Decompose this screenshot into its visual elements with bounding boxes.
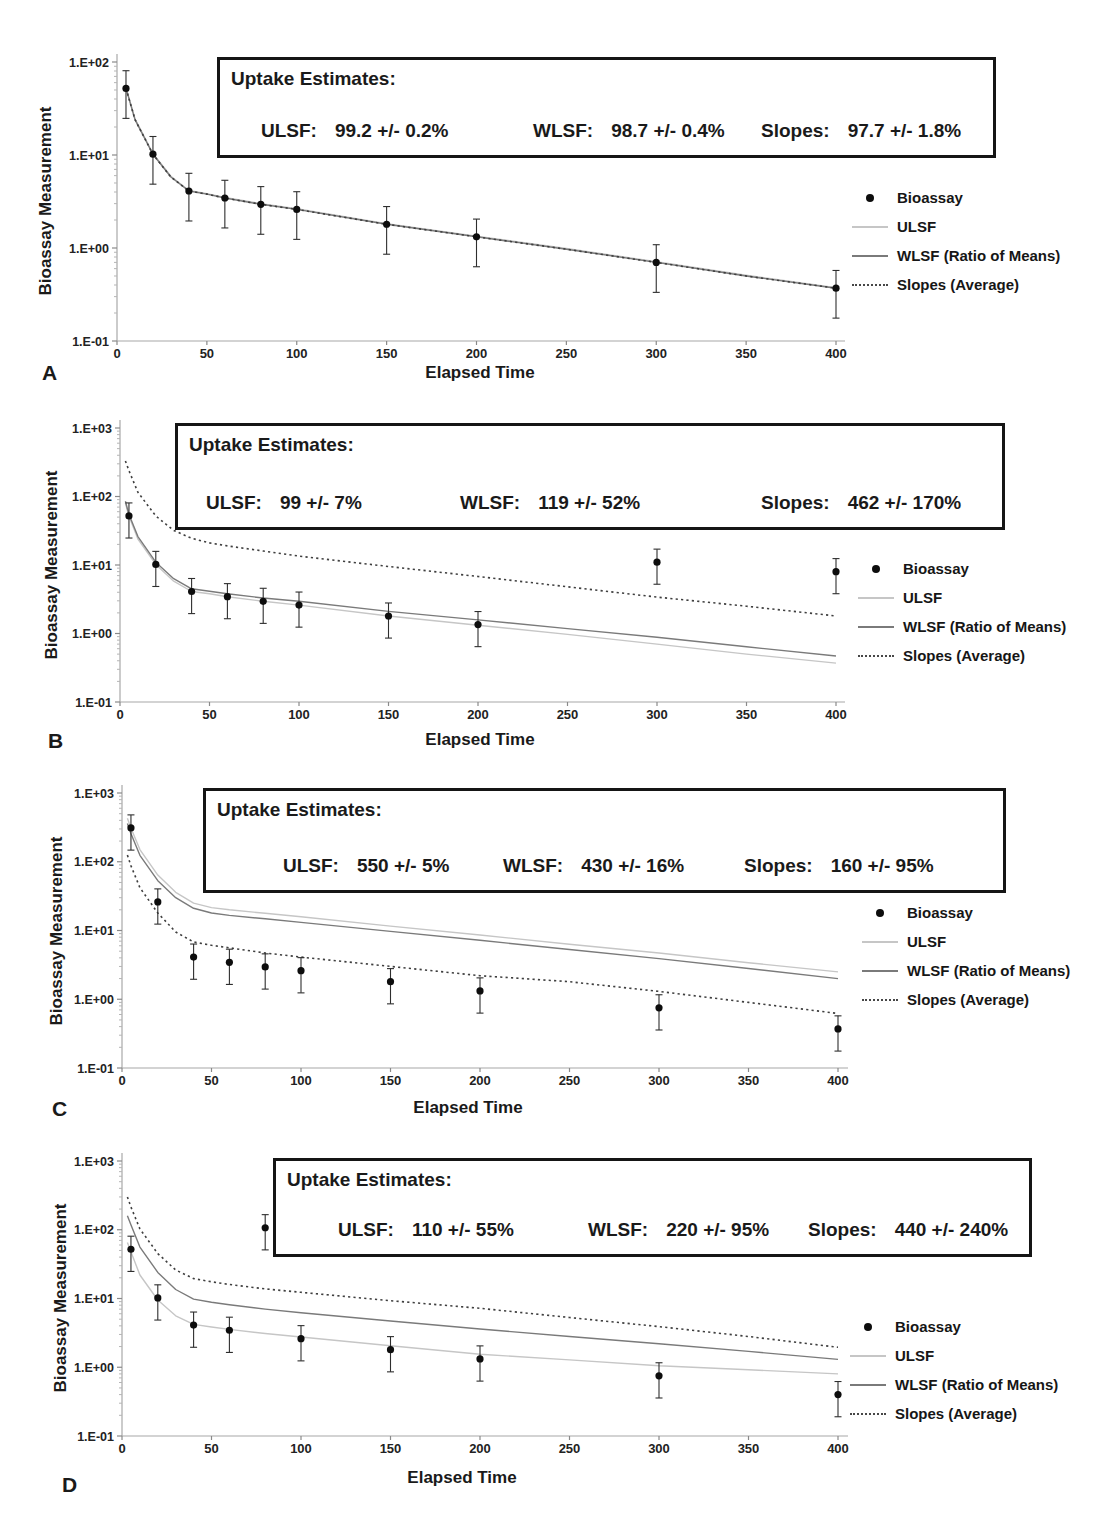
legend-item-wlsf: WLSF (Ratio of Means)	[862, 956, 1070, 985]
y-tick-label: 1.E+02	[74, 855, 114, 869]
x-tick-label: 200	[466, 346, 488, 361]
panel-d: 1.E+031.E+021.E+011.E+001.E-010501001502…	[0, 1140, 1106, 1516]
x-tick-label: 100	[290, 1073, 312, 1088]
uptake-estimates-title: Uptake Estimates:	[217, 799, 382, 821]
x-tick-label: 250	[556, 346, 578, 361]
y-tick-label: 1.E-01	[77, 1430, 114, 1444]
x-tick-label: 150	[378, 707, 400, 722]
x-tick-label: 100	[290, 1441, 312, 1456]
dotted-line-icon	[852, 284, 888, 286]
dotted-line-icon	[850, 1413, 886, 1415]
estimate-label: WLSF:	[533, 120, 593, 142]
dot-marker-icon	[862, 909, 898, 917]
estimate-value: 220 +/- 95%	[666, 1219, 769, 1241]
bioassay-point	[190, 954, 197, 961]
uptake-estimates-title: Uptake Estimates:	[287, 1169, 452, 1191]
legend-item-wlsf: WLSF (Ratio of Means)	[858, 612, 1066, 641]
x-tick-label: 0	[113, 346, 120, 361]
x-tick-label: 350	[738, 1441, 760, 1456]
x-tick-label: 100	[286, 346, 308, 361]
uptake-estimates-box: Uptake Estimates: ULSF: 99 +/- 7% WLSF: …	[175, 423, 1005, 530]
estimate-wlsf: WLSF: 220 +/- 95%	[588, 1219, 769, 1241]
bioassay-point	[385, 612, 392, 619]
y-axis-title: Bioassay Measurement	[51, 1204, 71, 1393]
bioassay-point	[226, 1327, 233, 1334]
legend-item-slopes: Slopes (Average)	[862, 985, 1070, 1014]
bioassay-point	[387, 978, 394, 985]
bioassay-point	[188, 588, 195, 595]
estimate-value: 99.2 +/- 0.2%	[335, 120, 449, 142]
y-axis-title: Bioassay Measurement	[36, 107, 56, 296]
y-tick-label: 1.E+02	[69, 56, 109, 70]
estimate-label: WLSF:	[588, 1219, 648, 1241]
uptake-estimates-title: Uptake Estimates:	[189, 434, 354, 456]
legend-item-bioassay: Bioassay	[862, 898, 1070, 927]
estimate-value: 110 +/- 55%	[412, 1219, 514, 1241]
dotted-line-icon	[862, 999, 898, 1001]
x-tick-label: 100	[288, 707, 310, 722]
bioassay-point	[655, 1372, 662, 1379]
estimate-wlsf: WLSF: 119 +/- 52%	[460, 492, 640, 514]
estimate-wlsf: WLSF: 430 +/- 16%	[503, 855, 684, 877]
x-tick-label: 200	[467, 707, 489, 722]
legend-item-wlsf: WLSF (Ratio of Means)	[852, 241, 1060, 270]
estimate-ulsf: ULSF: 550 +/- 5%	[283, 855, 449, 877]
bioassay-point	[653, 259, 660, 266]
estimate-label: Slopes:	[744, 855, 813, 877]
y-tick-label: 1.E+01	[74, 1292, 114, 1306]
x-tick-label: 200	[469, 1073, 491, 1088]
panel-a: 1.E+021.E+011.E+001.E-010501001502002503…	[0, 0, 1106, 400]
estimate-wlsf: WLSF: 98.7 +/- 0.4%	[533, 120, 725, 142]
estimate-ulsf: ULSF: 99.2 +/- 0.2%	[261, 120, 448, 142]
light-line-icon	[850, 1355, 886, 1357]
solid-line-icon	[858, 626, 894, 628]
bioassay-point	[185, 187, 192, 194]
bioassay-point	[655, 1004, 662, 1011]
solid-line-icon	[850, 1384, 886, 1386]
bioassay-point	[221, 194, 228, 201]
y-tick-label: 1.E-01	[72, 335, 109, 349]
legend-item-wlsf: WLSF (Ratio of Means)	[850, 1370, 1058, 1399]
bioassay-point	[152, 561, 159, 568]
bioassay-point	[473, 233, 480, 240]
panel-letter: C	[52, 1097, 67, 1121]
x-tick-label: 350	[736, 707, 758, 722]
estimate-value: 97.7 +/- 1.8%	[848, 120, 962, 142]
legend-item-ulsf: ULSF	[852, 212, 1060, 241]
y-tick-label: 1.E+02	[72, 490, 112, 504]
bioassay-point	[190, 1322, 197, 1329]
dotted-line-icon	[858, 655, 894, 657]
bioassay-point	[653, 559, 660, 566]
bioassay-point	[257, 201, 264, 208]
uptake-estimates-box: Uptake Estimates: ULSF: 110 +/- 55% WLSF…	[273, 1158, 1032, 1257]
x-tick-label: 300	[648, 1441, 670, 1456]
estimate-label: Slopes:	[761, 492, 830, 514]
solid-line-icon	[862, 970, 898, 972]
y-tick-label: 1.E+00	[74, 993, 114, 1007]
y-tick-label: 1.E+00	[74, 1361, 114, 1375]
estimate-value: 160 +/- 95%	[831, 855, 934, 877]
x-tick-label: 400	[827, 1073, 849, 1088]
uptake-estimates-box: Uptake Estimates: ULSF: 550 +/- 5% WLSF:…	[203, 788, 1006, 893]
bioassay-point	[262, 1224, 269, 1231]
x-tick-label: 50	[202, 707, 216, 722]
x-tick-label: 0	[118, 1441, 125, 1456]
panel-b: 1.E+031.E+021.E+011.E+001.E-010501001502…	[0, 400, 1106, 770]
estimate-slopes: Slopes: 440 +/- 240%	[808, 1219, 1008, 1241]
legend-item-bioassay: Bioassay	[858, 554, 1066, 583]
x-tick-label: 300	[648, 1073, 670, 1088]
x-tick-label: 250	[557, 707, 579, 722]
x-tick-label: 200	[469, 1441, 491, 1456]
bioassay-point	[387, 1346, 394, 1353]
y-tick-label: 1.E+01	[69, 149, 109, 163]
bioassay-point	[226, 959, 233, 966]
x-tick-label: 0	[118, 1073, 125, 1088]
bioassay-point	[122, 85, 129, 92]
bioassay-point	[297, 967, 304, 974]
legend-item-slopes: Slopes (Average)	[858, 641, 1066, 670]
legend: Bioassay ULSF WLSF (Ratio of Means) Slop…	[858, 554, 1066, 670]
light-line-icon	[862, 941, 898, 943]
y-tick-label: 1.E+03	[72, 422, 112, 436]
x-tick-label: 150	[380, 1073, 402, 1088]
bioassay-point	[154, 1294, 161, 1301]
